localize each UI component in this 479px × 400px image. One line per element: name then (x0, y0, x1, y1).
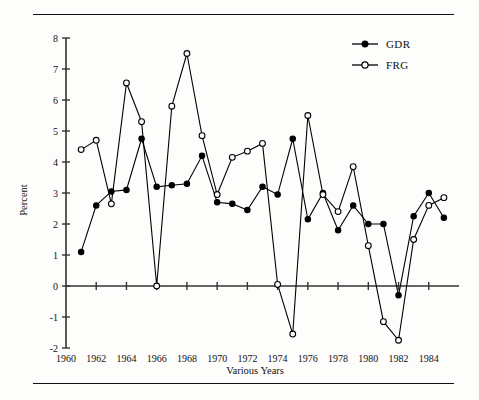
data-point (154, 184, 159, 189)
data-point (335, 228, 340, 233)
data-point (245, 207, 250, 212)
x-axis-tick-label: 1974 (268, 353, 288, 364)
data-point (124, 187, 129, 192)
series-layer (78, 51, 447, 344)
y-axis-tick-label: 5 (53, 126, 58, 137)
data-point (396, 293, 401, 298)
y-axis-tick-label: 6 (53, 95, 58, 106)
y-axis-tick-label: 3 (53, 188, 58, 199)
y-axis-tick-label: 0 (53, 281, 58, 292)
x-axis-tick-label: 1976 (298, 353, 318, 364)
data-point (78, 147, 84, 153)
chart-legend: GDRFRG (352, 38, 411, 71)
data-point (411, 214, 416, 219)
data-point (426, 203, 432, 209)
y-axis: 876543210-1-2 (50, 33, 70, 354)
legend-label: FRG (386, 59, 409, 71)
y-axis-tick-label: 7 (53, 64, 58, 75)
line-chart: 876543210-1-2 19601962196419661968197019… (0, 0, 479, 400)
legend-item-frg: FRG (352, 59, 409, 71)
x-axis-tick-label: 1962 (86, 353, 106, 364)
data-point (426, 190, 431, 195)
x-axis-label: Various Years (226, 365, 284, 376)
data-point (244, 148, 250, 154)
data-point (199, 153, 204, 158)
x-axis-tick-label: 1970 (207, 353, 227, 364)
x-axis-tick-label: 1972 (237, 353, 257, 364)
y-axis-label: Percent (18, 184, 29, 216)
data-point (124, 80, 130, 86)
x-axis-tick-label: 1980 (358, 353, 378, 364)
data-point (396, 337, 402, 343)
data-point (169, 103, 175, 109)
series-line (81, 139, 444, 296)
data-point (108, 201, 114, 207)
data-point (350, 164, 356, 170)
y-axis-tick-label: 2 (53, 219, 58, 230)
filled-circle-icon (362, 41, 368, 47)
data-point (335, 209, 341, 215)
x-axis-tick-label: 1964 (116, 353, 136, 364)
data-point (275, 282, 281, 288)
data-point (290, 136, 295, 141)
data-point (93, 137, 99, 143)
data-point (214, 200, 219, 205)
data-point (441, 195, 447, 201)
data-point (78, 249, 83, 254)
x-axis-tick-label: 1984 (419, 353, 439, 364)
legend-label: GDR (386, 38, 411, 50)
data-point (381, 221, 386, 226)
data-point (366, 221, 371, 226)
y-axis-tick-label: -2 (50, 343, 58, 354)
y-axis-tick-label: 8 (53, 33, 58, 44)
data-point (184, 51, 190, 57)
legend-item-gdr: GDR (352, 38, 411, 50)
y-axis-tick-label: 4 (53, 157, 58, 168)
data-point (199, 133, 205, 139)
data-point (214, 192, 220, 198)
data-point (230, 201, 235, 206)
data-point (229, 154, 235, 160)
data-point (94, 203, 99, 208)
data-point (305, 113, 311, 119)
data-point (381, 319, 387, 325)
data-point (365, 243, 371, 249)
data-point (305, 217, 310, 222)
chart-container: 876543210-1-2 19601962196419661968197019… (0, 0, 479, 400)
x-axis-tick-label: 1978 (328, 353, 348, 364)
data-point (139, 119, 145, 125)
x-axis-tick-label: 1966 (147, 353, 167, 364)
data-point (350, 203, 355, 208)
data-point (260, 141, 266, 147)
data-point (320, 192, 326, 198)
open-circle-icon (362, 62, 368, 68)
series-frg (78, 51, 447, 344)
series-line (81, 54, 444, 341)
data-point (260, 184, 265, 189)
data-point (184, 181, 189, 186)
x-axis-tick-label: 1960 (56, 353, 76, 364)
x-axis-tick-label: 1968 (177, 353, 197, 364)
data-point (275, 192, 280, 197)
y-axis-tick-label: -1 (50, 312, 58, 323)
data-point (169, 183, 174, 188)
data-point (290, 331, 296, 337)
y-axis-tick-label: 1 (53, 250, 58, 261)
data-point (154, 283, 160, 289)
x-axis-tick-label: 1982 (389, 353, 409, 364)
data-point (411, 237, 417, 243)
data-point (441, 215, 446, 220)
series-gdr (78, 136, 446, 298)
